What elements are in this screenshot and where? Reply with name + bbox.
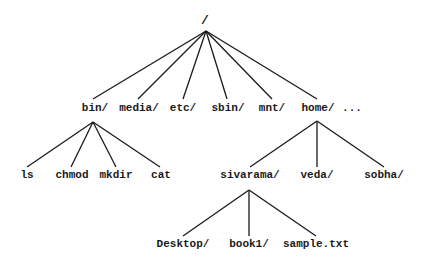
edge-root-media xyxy=(138,31,206,99)
node-etc: etc/ xyxy=(170,102,197,114)
edge-bin-mkdir xyxy=(93,122,116,167)
node-media: media/ xyxy=(119,102,159,114)
node-sample: sample.txt xyxy=(283,238,349,250)
edge-sivarama-desktop xyxy=(183,190,249,236)
node-cat: cat xyxy=(151,169,171,181)
node-mnt: mnt/ xyxy=(259,102,286,114)
edge-root-etc xyxy=(183,31,206,99)
edge-home-sobha xyxy=(317,121,384,167)
edge-home-sivarama xyxy=(250,121,317,167)
edge-bin-ls xyxy=(27,122,93,167)
node-chmod: chmod xyxy=(55,169,88,181)
tree-edges xyxy=(27,31,384,236)
node-sivarama: sivarama/ xyxy=(220,169,280,181)
node-sbin: sbin/ xyxy=(211,102,244,114)
node-mkdir: mkdir xyxy=(99,169,132,181)
node-book1: book1/ xyxy=(229,238,269,250)
node-ls: ls xyxy=(20,169,33,181)
node-veda: veda/ xyxy=(300,169,333,181)
node-ellipsis: ... xyxy=(342,102,362,114)
node-sobha: sobha/ xyxy=(364,169,404,181)
root-node: / xyxy=(201,13,209,28)
node-bin: bin/ xyxy=(82,102,109,114)
node-desktop: Desktop/ xyxy=(157,238,210,250)
directory-tree-diagram: / bin/media/etc/sbin/mnt/home/...lschmod… xyxy=(0,0,422,264)
node-home: home/ xyxy=(301,102,334,114)
edge-bin-cat xyxy=(93,122,160,167)
edge-root-bin xyxy=(93,31,206,99)
edge-sivarama-sample xyxy=(249,190,316,236)
